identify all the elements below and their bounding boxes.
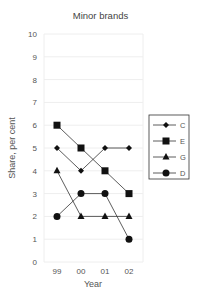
circle-marker — [54, 213, 61, 220]
square-marker — [163, 138, 170, 145]
circle-marker — [78, 190, 85, 197]
y-tick-label: 0 — [33, 258, 38, 267]
legend: CEGD — [149, 115, 189, 179]
circle-marker — [126, 236, 133, 243]
y-axis-label: Share, per cent — [7, 117, 17, 179]
diamond-marker — [126, 145, 132, 151]
legend-label: C — [180, 121, 186, 130]
square-marker — [78, 145, 85, 152]
x-tick-label: 99 — [53, 267, 62, 276]
y-axis-ticks: 012345678910 — [28, 30, 37, 267]
triangle-marker — [102, 212, 109, 219]
y-tick-label: 5 — [33, 144, 38, 153]
y-tick-label: 10 — [28, 30, 37, 39]
y-tick-label: 1 — [33, 235, 38, 244]
triangle-marker — [126, 212, 133, 219]
square-marker — [126, 190, 133, 197]
square-marker — [102, 167, 109, 174]
x-tick-label: 02 — [125, 267, 134, 276]
line-chart: 012345678910 99000102 Share, per cent Ye… — [0, 0, 201, 298]
legend-label: D — [180, 169, 186, 178]
x-axis-label: Year — [84, 279, 102, 289]
x-tick-label: 00 — [77, 267, 86, 276]
y-tick-label: 7 — [33, 98, 38, 107]
series-lines — [54, 122, 133, 243]
y-tick-label: 9 — [33, 53, 38, 62]
legend-label: G — [180, 153, 186, 162]
y-tick-label: 4 — [33, 167, 38, 176]
circle-marker — [102, 190, 109, 197]
series-E — [54, 122, 133, 197]
legend-label: E — [180, 137, 185, 146]
x-axis-ticks: 99000102 — [53, 267, 134, 276]
y-tick-label: 3 — [33, 190, 38, 199]
triangle-marker — [78, 212, 85, 219]
square-marker — [54, 122, 61, 129]
y-tick-label: 6 — [33, 121, 38, 130]
triangle-marker — [54, 167, 61, 174]
circle-marker — [163, 170, 170, 177]
y-tick-label: 8 — [33, 76, 38, 85]
y-tick-label: 2 — [33, 212, 38, 221]
series-G — [54, 167, 133, 219]
x-tick-label: 01 — [101, 267, 110, 276]
